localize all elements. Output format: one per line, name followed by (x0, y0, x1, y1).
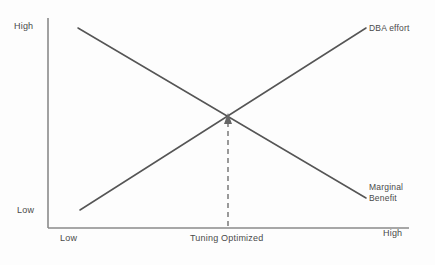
series-label-marginal-line2: Benefit (369, 193, 403, 204)
y-axis-label-low: Low (17, 205, 34, 215)
series-label-dba-effort: DBA effort (369, 23, 410, 34)
series-label-marginal-line1: Marginal (369, 182, 403, 193)
x-axis-label-low: Low (60, 233, 77, 243)
x-axis-label-high: High (383, 228, 402, 238)
x-axis-label-tuning-optimized: Tuning Optimized (190, 233, 263, 243)
series-label-marginal-benefit: Marginal Benefit (369, 182, 403, 204)
chart-plot-area (0, 0, 435, 265)
marginal-benefit-chart: High Low Low Tuning Optimized High DBA e… (0, 0, 435, 265)
series-line-marginal-benefit (78, 28, 366, 198)
y-axis-label-high: High (14, 21, 33, 31)
